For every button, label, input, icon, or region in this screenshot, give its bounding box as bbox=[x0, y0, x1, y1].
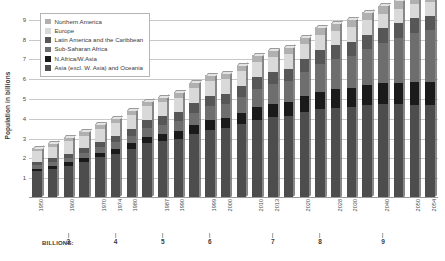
legend-item[interactable]: Asia (excl. W. Asia) and Oceania bbox=[45, 63, 143, 72]
bar[interactable] bbox=[205, 75, 214, 198]
bar[interactable] bbox=[158, 97, 167, 199]
bar[interactable] bbox=[64, 137, 73, 198]
bar-segment bbox=[95, 129, 104, 142]
bar[interactable] bbox=[95, 124, 104, 198]
x-axis-tick-label: 1974 bbox=[118, 199, 124, 211]
bar-segment bbox=[410, 82, 419, 105]
bar-segment bbox=[394, 23, 403, 38]
billion-marker: 5 bbox=[161, 233, 165, 246]
bar-side-face bbox=[152, 99, 154, 198]
bar-segment bbox=[189, 103, 198, 113]
bar[interactable] bbox=[32, 148, 41, 198]
bar-side-face bbox=[246, 62, 248, 197]
bar[interactable] bbox=[252, 55, 261, 198]
bar[interactable] bbox=[48, 143, 57, 198]
bar-segment bbox=[394, 83, 403, 105]
bar[interactable] bbox=[79, 131, 88, 198]
billion-marker: 9 bbox=[381, 233, 385, 246]
billion-marker: 6 bbox=[208, 233, 212, 246]
legend-item[interactable]: Europe bbox=[45, 26, 143, 35]
bar[interactable] bbox=[237, 65, 246, 198]
bar-segment bbox=[362, 49, 371, 85]
y-axis-tick-label: 4 bbox=[23, 116, 26, 122]
billion-marker: 8 bbox=[318, 233, 322, 246]
bar-segment bbox=[48, 147, 57, 158]
bar-segment bbox=[252, 120, 261, 198]
legend-item-label: Asia (excl. W. Asia) and Oceania bbox=[55, 65, 143, 71]
x-axis-tick-label: 2000 bbox=[228, 199, 234, 211]
x-axis-tick-label: 1999 bbox=[212, 199, 218, 211]
bar-segment bbox=[300, 44, 309, 59]
bar-segment bbox=[127, 129, 136, 136]
bar-side-face bbox=[89, 129, 91, 198]
bar-top-face bbox=[237, 63, 250, 66]
billion-marker-value: 4 bbox=[114, 239, 118, 246]
bar[interactable] bbox=[111, 118, 120, 198]
bar[interactable] bbox=[221, 73, 230, 198]
bar-segment bbox=[315, 64, 324, 92]
bar-segment bbox=[347, 107, 356, 198]
bar[interactable] bbox=[268, 50, 277, 198]
bar-side-face bbox=[120, 116, 122, 198]
legend-item[interactable]: Latin America and the Caribbean bbox=[45, 36, 143, 45]
bar-side-face bbox=[215, 73, 217, 197]
bar-segment bbox=[394, 9, 403, 23]
bar[interactable] bbox=[410, 0, 419, 198]
x-axis-tick-label: 2028 bbox=[338, 199, 344, 211]
bar-segment bbox=[394, 0, 403, 9]
x-axis-tick-label: 2050 bbox=[416, 199, 422, 211]
bar[interactable] bbox=[315, 27, 324, 198]
y-axis-tick-label: 8 bbox=[23, 37, 26, 43]
bar-segment bbox=[268, 104, 277, 118]
x-axis-tick-label: 2054 bbox=[432, 199, 438, 211]
bar-segment bbox=[111, 123, 120, 136]
bar-segment bbox=[189, 113, 198, 125]
bar-side-face bbox=[309, 34, 311, 197]
bar-segment bbox=[252, 89, 261, 107]
bar[interactable] bbox=[174, 92, 183, 198]
bar-side-face bbox=[278, 48, 280, 198]
bar[interactable] bbox=[331, 23, 340, 199]
bar-segment bbox=[300, 59, 309, 72]
bar-side-face bbox=[57, 141, 59, 198]
bar-segment bbox=[174, 121, 183, 131]
y-axis-tick-label: 9 bbox=[23, 17, 26, 23]
bar[interactable] bbox=[127, 110, 136, 198]
bar-segment bbox=[32, 151, 41, 162]
legend-swatch-icon bbox=[45, 47, 51, 53]
bar[interactable] bbox=[362, 12, 371, 198]
bar[interactable] bbox=[189, 82, 198, 198]
bar-segment bbox=[284, 81, 293, 102]
bar-segment bbox=[158, 102, 167, 116]
bar-segment bbox=[347, 19, 356, 27]
bar-segment bbox=[158, 125, 167, 134]
bar-segment bbox=[142, 143, 151, 198]
legend-item[interactable]: Sub-Saharan Africa bbox=[45, 45, 143, 54]
legend-item-label: Sub-Saharan Africa bbox=[55, 46, 108, 52]
bar-side-face bbox=[105, 122, 107, 198]
y-axis-tick-label: 5 bbox=[23, 96, 26, 102]
bar-segment bbox=[410, 105, 419, 198]
billion-marker: 4 bbox=[114, 233, 118, 246]
bar[interactable] bbox=[425, 0, 434, 198]
bar-side-face bbox=[42, 145, 44, 197]
bar[interactable] bbox=[284, 47, 293, 198]
bar-segment bbox=[252, 77, 261, 89]
bar-segment bbox=[410, 4, 419, 18]
bar-segment bbox=[237, 113, 246, 124]
x-axis-tick-label: 2040 bbox=[385, 199, 391, 211]
bar[interactable] bbox=[347, 19, 356, 198]
bar-segment bbox=[174, 112, 183, 121]
bar-side-face bbox=[136, 108, 138, 198]
legend-item[interactable]: N.Africa/W.Asia bbox=[45, 54, 143, 63]
bar-segment bbox=[315, 109, 324, 198]
bar-side-face bbox=[435, 0, 437, 197]
bar[interactable] bbox=[378, 5, 387, 198]
bar-side-face bbox=[325, 25, 327, 197]
legend-item[interactable]: Northern America bbox=[45, 17, 143, 26]
bar-segment bbox=[268, 84, 277, 104]
bar-segment bbox=[362, 20, 371, 34]
bar[interactable] bbox=[142, 101, 151, 198]
bar[interactable] bbox=[394, 0, 403, 198]
bar[interactable] bbox=[300, 37, 309, 198]
